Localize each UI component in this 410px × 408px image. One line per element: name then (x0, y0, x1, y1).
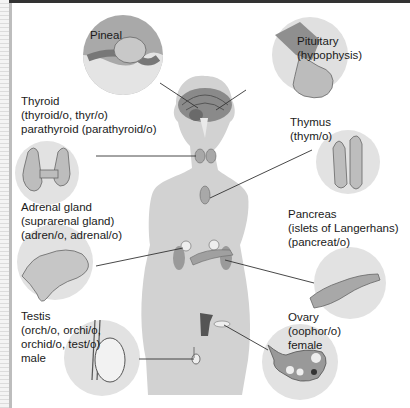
label-pineal: Pineal (90, 28, 122, 42)
body-silhouette (141, 76, 250, 395)
label-adrenal-gland: Adrenal gland (suprarenal gland) (adren/… (21, 200, 122, 242)
pancreas-circle (310, 247, 386, 319)
thyroid-circle (15, 141, 79, 205)
thymus-small (200, 186, 210, 204)
label-testis: Testis (orch/o, orchi/o, orchid/o, test/… (21, 309, 101, 365)
label-ovary: Ovary (oophor/o) female (288, 310, 341, 352)
label-pancreas: Pancreas (islets of Langerhans) (pancrea… (288, 207, 399, 249)
label-pituitary: Pituitary (hypophysis) (297, 34, 362, 62)
pineal-circle (83, 15, 163, 95)
endocrine-diagram: Pineal Pituitary (hypophysis) Thyroid (t… (0, 0, 410, 408)
label-thyroid: Thyroid (thyroid/o, thyr/o) parathyroid … (21, 94, 157, 136)
label-thymus: Thymus (thym/o) (290, 115, 332, 143)
